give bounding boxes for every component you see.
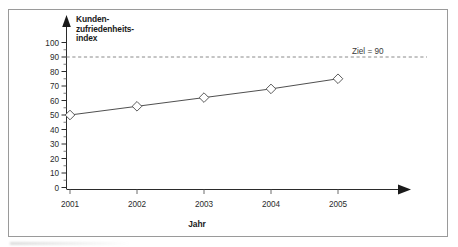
data-markers: [65, 74, 343, 120]
chart-page: Kunden- zufriedenheits- index 100 90 80 …: [0, 0, 458, 247]
data-point-2005: [333, 74, 343, 84]
chart-canvas: [0, 0, 458, 247]
data-point-2004: [266, 84, 276, 94]
x-ticks: [70, 190, 338, 195]
scan-artifact-bottom: [10, 242, 130, 245]
x-axis-arrow-icon: [398, 185, 411, 195]
data-point-2003: [199, 93, 209, 103]
y-axis-arrow-icon: [62, 15, 71, 27]
data-point-2002: [132, 102, 142, 112]
